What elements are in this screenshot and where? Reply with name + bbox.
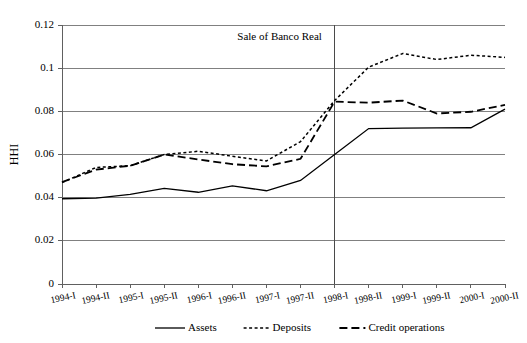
x-tick-label: 1998-II [353,290,383,306]
series-line-assets [62,109,505,199]
x-tick-label: 1994-I [50,290,77,305]
y-axis-title: HHI [7,144,21,165]
x-tick-label: 1996-II [217,290,247,306]
x-tick-labels-group: 1994-I1994-II1995-I1995-II1996-I1996-II1… [50,290,520,306]
data-series-group [62,53,505,198]
gridlines-group [62,25,505,241]
y-tick-label: 0.08 [35,104,55,116]
y-tick-label: 0.06 [35,147,55,159]
x-tick-label: 1999-I [390,290,417,305]
chart-figure: 00.020.040.060.080.10.12 1994-I1994-II19… [0,0,527,343]
legend-label-assets: Assets [188,321,217,333]
y-tick-label: 0.12 [35,18,54,30]
chart-legend: AssetsDepositsCredit operations [155,321,444,333]
x-tick-label: 2000-I [458,290,485,305]
banco-real-annotation: Sale of Banco Real [237,30,322,42]
y-tick-label: 0.02 [35,233,54,245]
x-tick-marks-group [62,284,505,288]
x-tick-label: 1996-I [186,290,213,305]
series-line-deposits [62,53,505,182]
y-tick-label: 0.04 [35,190,55,202]
x-tick-label: 1995-II [149,290,179,306]
x-tick-label: 1997-II [285,290,315,306]
legend-label-credit-operations: Credit operations [368,321,444,333]
y-tick-marks-group [58,25,62,284]
x-tick-label: 1998-I [322,290,349,305]
x-tick-label: 1994-II [81,290,111,306]
y-tick-labels-group: 00.020.040.060.080.10.12 [35,18,55,289]
y-tick-label: 0.1 [40,61,54,73]
hhi-line-chart: 00.020.040.060.080.10.12 1994-I1994-II19… [0,0,527,343]
x-tick-label: 1997-I [254,290,281,305]
y-tick-label: 0 [49,277,55,289]
x-tick-label: 1995-I [118,290,145,305]
x-tick-label: 2000-II [489,290,519,306]
legend-label-deposits: Deposits [273,321,312,333]
series-line-credit-operations [62,101,505,183]
x-tick-label: 1999-II [421,290,451,306]
